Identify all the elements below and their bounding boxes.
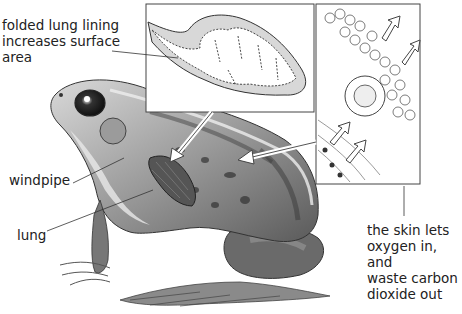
label-windpipe: windpipe (9, 172, 70, 188)
label-folded-lung-lining: folded lung lining increases surface are… (2, 17, 120, 65)
skin-section-inset (316, 4, 420, 184)
label-skin-exchange: the skin lets oxygen in, and waste carbo… (367, 222, 462, 302)
label-lung: lung (17, 227, 46, 243)
frog-illustration (51, 80, 330, 306)
lung-section-inset (146, 4, 314, 112)
